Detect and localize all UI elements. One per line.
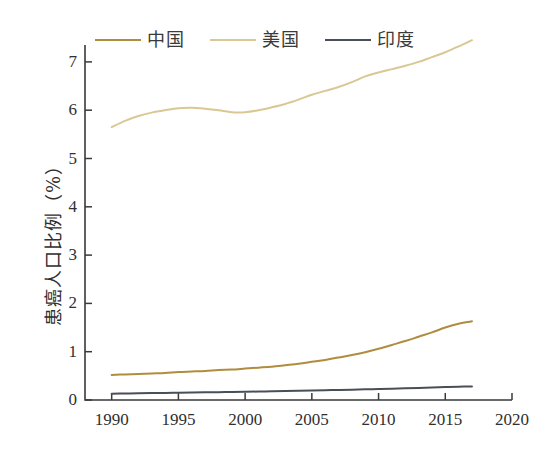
- y-tick-label: 2: [57, 293, 77, 313]
- x-tick-label: 1995: [151, 410, 205, 430]
- y-tick-label: 3: [57, 245, 77, 265]
- x-tick-label: 2005: [285, 410, 339, 430]
- y-tick-label: 4: [57, 197, 77, 217]
- x-tick-label: 1990: [85, 410, 139, 430]
- x-tick-label: 2015: [418, 410, 472, 430]
- x-tick-label: 2010: [352, 410, 406, 430]
- x-tick-label: 2000: [218, 410, 272, 430]
- y-tick-label: 0: [57, 390, 77, 410]
- plot-area: [0, 0, 558, 475]
- axis-lines: [85, 45, 512, 400]
- cancer-population-share-line-chart: 中国 美国 印度 患癌人口比例（%） 01234567 199019952000…: [0, 0, 558, 475]
- series-line-china: [112, 321, 472, 375]
- y-tick-label: 5: [57, 149, 77, 169]
- y-tick-label: 6: [57, 100, 77, 120]
- y-tick-label: 7: [57, 52, 77, 72]
- series-line-usa: [112, 40, 472, 127]
- series-line-india: [112, 386, 472, 393]
- y-tick-label: 1: [57, 342, 77, 362]
- data-series-group: [112, 40, 472, 394]
- x-tick-label: 2020: [485, 410, 539, 430]
